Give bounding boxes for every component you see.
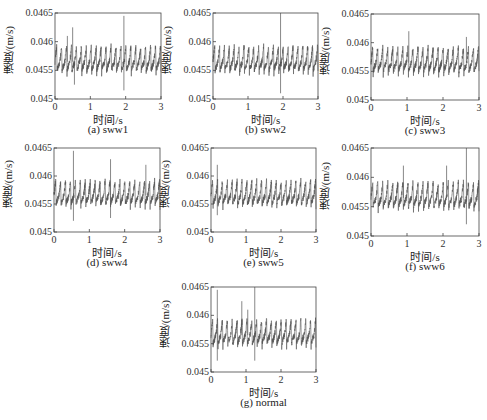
y-tick-label: 0.0465 (182, 281, 210, 292)
signal-line (211, 318, 316, 350)
y-tick-label: 0.0455 (182, 338, 210, 349)
y-axis-label: 速度/(m/s) (157, 300, 173, 348)
y-tick-label: 0.045 (187, 366, 210, 377)
y-tick-label: 0.046 (187, 309, 210, 320)
panel-caption: (g) normal (224, 396, 304, 408)
x-tick-label: 0 (209, 374, 214, 385)
x-tick-label: 3 (314, 374, 319, 385)
plot-area: 0.0450.04550.0460.04650123 (0, 0, 487, 420)
